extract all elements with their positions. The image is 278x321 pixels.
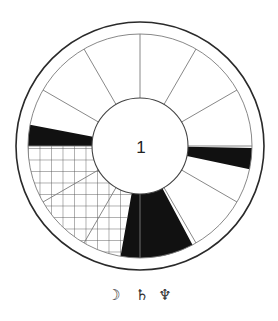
house-wheel-diagram: 1 [0, 0, 278, 321]
planet-symbols: ☽ ♄ ♆ [0, 286, 278, 306]
house-spoke-line [182, 170, 237, 202]
right-black-wedge [187, 147, 252, 169]
bottom-black-wedge [121, 188, 193, 258]
house-spoke-line [182, 90, 237, 122]
moon-icon: ☽ [107, 286, 120, 304]
house-number-label: 1 [136, 138, 145, 157]
house-spoke-line [84, 49, 116, 104]
left-black-wedge [28, 125, 93, 146]
saturn-icon: ♄ [135, 286, 148, 304]
house-spoke-line [43, 90, 98, 122]
neptune-icon: ♆ [158, 286, 171, 304]
house-spoke-line [164, 49, 196, 104]
